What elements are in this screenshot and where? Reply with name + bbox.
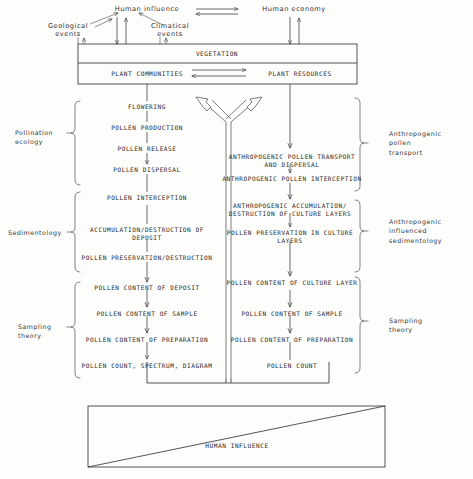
left-brace-sedimentology (67, 192, 80, 272)
event-tick-marks (78, 37, 166, 44)
influence-economy-exchange-arrows (196, 9, 238, 14)
right-brace-label-sampling-theory: Sampling theory (389, 316, 422, 335)
left-node-pollen-content-of-deposit: POLLEN CONTENT OF DEPOSIT (94, 284, 199, 292)
right-node-anthropogenic-pollen-interception: ANTHROPOGENIC POLLEN INTERCEPTION (222, 175, 361, 183)
geological-events-label: Geological events (48, 22, 88, 38)
right-node-anthropogenic-accumulation-destruction: ANTHROPOGENIC ACCUMULATION/ DESTRUCTION … (229, 202, 351, 218)
right-node-pollen-preservation-in-culture-layers: POLLEN PRESERVATION IN CULTURE LAYERS (227, 229, 354, 245)
plant-exchange-arrows (192, 70, 246, 76)
left-brace-pollination-ecology (67, 101, 80, 185)
left-brace-label-sedimentology: Sedimentology (8, 228, 62, 237)
left-brace-sampling-theory (67, 282, 80, 378)
right-brace-label-anthropogenic-pollen-transport: Anthropogenic pollen transport (389, 129, 441, 157)
right-node-pollen-content-of-preparation: POLLEN CONTENT OF PREPARATION (231, 336, 353, 344)
human-influence-box-label: HUMAN INFLUENCE (205, 442, 268, 450)
vegetation-drop-lines (147, 84, 290, 148)
right-brace-label-anthropogenic-influenced-sedimentology: Anthropogenic influenced sedimentology (389, 217, 442, 245)
human-influence-label: Human influence (115, 5, 179, 13)
left-brace-label-pollination-ecology: Pollination ecology (15, 128, 53, 147)
vegetation-header: VEGETATION (196, 50, 238, 58)
left-node-accumulation-destruction-deposit: ACCUMULATION/DESTRUCTION OF DEPOSIT (90, 226, 204, 242)
plant-communities-cell: PLANT COMMUNITIES (111, 70, 183, 78)
left-brace-label-sampling-theory: Sampling theory (18, 322, 51, 341)
human-influence-vertical-arrows (117, 17, 126, 44)
right-brace-sampling-theory (355, 277, 368, 373)
human-economy-label: Human economy (262, 5, 325, 13)
left-node-pollen-dispersal: POLLEN DISPERSAL (113, 166, 181, 174)
left-node-pollen-content-of-preparation: POLLEN CONTENT OF PREPARATION (86, 336, 208, 344)
right-node-pollen-content-of-sample: POLLEN CONTENT OF SAMPLE (241, 310, 342, 318)
right-node-pollen-count: POLLEN COUNT (267, 362, 318, 370)
left-node-pollen-interception: POLLEN INTERCEPTION (107, 194, 187, 202)
climatical-events-label: Climatical events (151, 22, 189, 38)
geological-events-arrows (90, 13, 118, 27)
diagram-canvas: Human influence Human economy Geological… (0, 0, 473, 479)
left-node-pollen-preservation-destruction: POLLEN PRESERVATION/DESTRUCTION (82, 254, 213, 262)
right-brace-anthropogenic-influenced-sedimentology (355, 200, 368, 272)
left-node-pollen-count-spectrum-diagram: POLLEN COUNT, SPECTRUM, DIAGRAM (82, 362, 213, 370)
human-influence-box (88, 406, 385, 467)
plant-resources-cell: PLANT RESOURCES (268, 70, 331, 78)
left-node-pollen-production: POLLEN PRODUCTION (111, 124, 183, 132)
left-node-flowering: FLOWERING (128, 103, 166, 111)
left-node-pollen-content-of-sample: POLLEN CONTENT OF SAMPLE (96, 310, 197, 318)
right-node-anthropogenic-pollen-transport: ANTHROPOGENIC POLLEN TRANSPORT AND DISPE… (229, 153, 356, 169)
left-node-pollen-release: POLLEN RELEASE (117, 145, 176, 153)
human-economy-vertical-arrows (290, 17, 299, 44)
right-node-pollen-content-of-culture-layer: POLLEN CONTENT OF CULTURE LAYER (227, 279, 358, 287)
